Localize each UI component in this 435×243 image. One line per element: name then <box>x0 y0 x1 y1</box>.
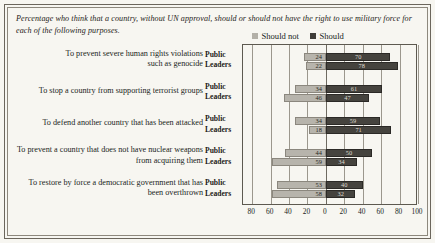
bar-value-label: 34 <box>338 159 344 165</box>
bar-row: 2470 <box>243 53 416 61</box>
legend-swatch-icon-should <box>310 33 316 39</box>
category-labels: To prevent severe human rights violation… <box>14 44 203 205</box>
bar-group: 24702278 <box>243 45 416 77</box>
legend-swatch-icon-should-not <box>252 33 258 39</box>
respondent-group-pair: PublicLeaders <box>205 50 240 71</box>
x-axis-tick-label: 80 <box>395 207 402 216</box>
bar-value-label: 50 <box>346 150 352 156</box>
x-axis-tick-label: 60 <box>376 207 383 216</box>
bar-row: 4450 <box>243 149 416 157</box>
category-label-line: To restore by force a democratic governm… <box>29 178 203 188</box>
bar-value-label: 71 <box>355 127 361 133</box>
label-leaders: Leaders <box>205 125 240 136</box>
label-public: Public <box>205 178 240 189</box>
bar-row: 5832 <box>243 190 416 198</box>
bar-should: 34 <box>326 158 357 166</box>
label-leaders: Leaders <box>205 189 240 200</box>
bar-value-label: 59 <box>315 159 321 165</box>
bar-should: 47 <box>326 94 369 102</box>
x-axis-tick-label: 80 <box>248 207 255 216</box>
category-label: To prevent severe human rights violation… <box>66 49 203 70</box>
gridline-100 <box>418 45 419 204</box>
bar-value-label: 46 <box>315 95 321 101</box>
x-axis-tick-label: 40 <box>358 207 365 216</box>
plot-area: 2470227834614647345918714450593453405832 <box>242 44 417 205</box>
bar-should: 40 <box>326 181 363 189</box>
x-axis: 80604020020406080100 <box>242 207 417 221</box>
respondent-group-pair: PublicLeaders <box>205 178 240 199</box>
respondent-group-pair: PublicLeaders <box>205 146 240 167</box>
bar-group: 44505934 <box>243 142 416 174</box>
label-leaders: Leaders <box>205 92 240 103</box>
category-label: To defend another country that has been … <box>42 118 203 128</box>
respondent-group-pair: PublicLeaders <box>205 114 240 135</box>
bar-row: 5340 <box>243 181 416 189</box>
bar-should-not: 53 <box>277 181 326 189</box>
label-public: Public <box>205 114 240 125</box>
bar-should: 78 <box>326 62 398 70</box>
bar-should: 32 <box>326 190 355 198</box>
bar-value-label: 18 <box>316 127 322 133</box>
label-leaders: Leaders <box>205 157 240 168</box>
label-public: Public <box>205 50 240 61</box>
bar-value-label: 44 <box>315 150 321 156</box>
bar-row: 5934 <box>243 158 416 166</box>
bar-value-label: 61 <box>351 86 357 92</box>
legend-label-should: Should <box>319 31 343 41</box>
bar-should: 50 <box>326 149 372 157</box>
category-label: To restore by force a democratic governm… <box>29 178 203 199</box>
bar-value-label: 40 <box>341 182 347 188</box>
bar-should-not: 58 <box>272 190 325 198</box>
label-public: Public <box>205 146 240 157</box>
x-axis-tick-label: 20 <box>303 207 310 216</box>
bar-row: 3461 <box>243 85 416 93</box>
bar-row: 3459 <box>243 117 416 125</box>
bar-value-label: 32 <box>337 191 343 197</box>
category-label-line: from acquiring them <box>17 156 203 166</box>
bar-should-not: 18 <box>309 126 326 134</box>
legend-item-should: Should <box>310 31 344 41</box>
x-axis-tick-label: 100 <box>411 207 422 216</box>
bar-row: 1871 <box>243 126 416 134</box>
bar-should: 70 <box>326 53 390 61</box>
bar-value-label: 59 <box>350 118 356 124</box>
bar-should-not: 34 <box>295 85 326 93</box>
bar-value-label: 24 <box>315 53 321 59</box>
chart-figure: Percentage who think that a country, wit… <box>0 0 435 243</box>
bar-group: 34614647 <box>243 77 416 109</box>
bar-value-label: 58 <box>315 191 321 197</box>
category-label-line: To defend another country that has been … <box>42 118 203 128</box>
bar-group: 53405832 <box>243 174 416 206</box>
bar-value-label: 70 <box>355 53 361 59</box>
bar-group: 34591871 <box>243 109 416 141</box>
category-label-line: To stop a country from supporting terror… <box>39 86 203 96</box>
x-axis-tick-label: 60 <box>266 207 273 216</box>
category-label-line: To prevent severe human rights violation… <box>66 49 203 59</box>
respondent-group-pair: PublicLeaders <box>205 82 240 103</box>
category-label-line: such as genocide <box>66 59 203 69</box>
category-label: To prevent a country that does not have … <box>17 145 203 166</box>
bar-should-not: 34 <box>295 117 326 125</box>
x-axis-tick-label: 0 <box>323 207 327 216</box>
bar-value-label: 53 <box>316 182 322 188</box>
respondent-group-labels: PublicLeadersPublicLeadersPublicLeadersP… <box>205 44 240 205</box>
legend-item-should-not: Should not <box>252 31 299 41</box>
bar-should: 59 <box>326 117 380 125</box>
bar-value-label: 34 <box>316 86 322 92</box>
bar-should-not: 59 <box>272 158 326 166</box>
bar-value-label: 34 <box>316 118 322 124</box>
legend-label-should-not: Should not <box>262 31 299 41</box>
x-axis-tick-label: 40 <box>284 207 291 216</box>
category-label-line: been overthrown <box>29 188 203 198</box>
bar-value-label: 78 <box>359 62 365 68</box>
chart-caption: Percentage who think that a country, wit… <box>16 13 419 36</box>
bar-value-label: 47 <box>344 95 350 101</box>
bar-row: 2278 <box>243 62 416 70</box>
label-leaders: Leaders <box>205 60 240 71</box>
bar-should-not: 44 <box>285 149 326 157</box>
chart-legend: Should not Should <box>252 31 344 41</box>
bar-should-not: 22 <box>306 62 326 70</box>
x-axis-tick-label: 20 <box>340 207 347 216</box>
label-public: Public <box>205 82 240 93</box>
bar-value-label: 22 <box>315 62 321 68</box>
